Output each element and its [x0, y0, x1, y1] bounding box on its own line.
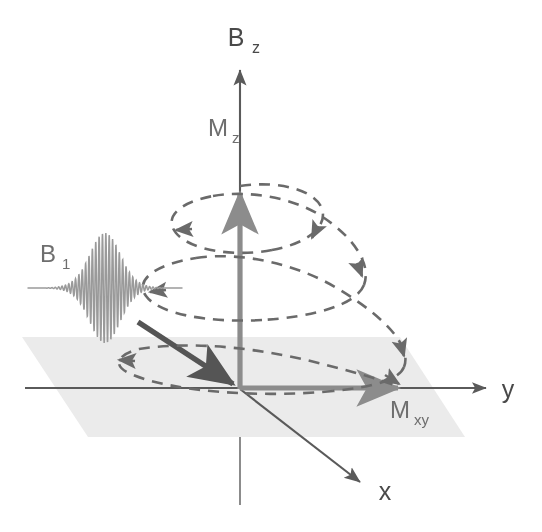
spiral-arrow-mid-right	[357, 263, 362, 276]
spiral-arrow-mid-left	[150, 290, 166, 292]
spiral-segment-3	[213, 194, 366, 285]
mxy-vector-label: M	[390, 396, 410, 423]
spiral-segment-2	[172, 196, 272, 253]
bz-axis-label-subscript: z	[252, 39, 260, 56]
spiral-arrow-lower-left	[119, 360, 135, 361]
y-axis-label: y	[502, 375, 515, 403]
spiral-segment-4	[262, 285, 364, 320]
spiral-segment-5	[143, 258, 262, 321]
b1-pulse-label-subscript: 1	[62, 255, 70, 272]
spiral-arrow-upper-left	[176, 229, 192, 230]
figure-canvas: B z y x M z M xy B 1	[0, 0, 542, 532]
nmr-precession-figure: B z y x M z M xy B 1	[0, 0, 542, 532]
mz-vector-label-subscript: z	[232, 129, 240, 146]
mxy-vector-label-subscript: xy	[414, 411, 430, 428]
b1-pulse-label: B	[40, 240, 56, 267]
bz-axis-label: B	[228, 23, 245, 51]
mz-vector-label: M	[208, 114, 228, 141]
x-axis-label: x	[379, 477, 392, 505]
